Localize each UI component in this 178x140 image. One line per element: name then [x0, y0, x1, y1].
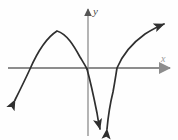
y-axis-label: y: [92, 5, 98, 17]
graph-screenshot: y x: [0, 0, 178, 140]
coordinate-plane-plot: y x: [0, 0, 178, 140]
x-axis-label: x: [160, 53, 166, 64]
plot-background: [0, 0, 178, 140]
